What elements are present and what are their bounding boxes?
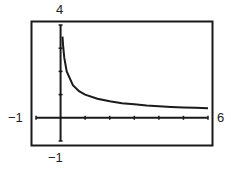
graph-screen (0, 0, 231, 174)
function-curve (63, 37, 209, 109)
viewing-window-frame (32, 22, 213, 146)
axes (36, 25, 208, 141)
